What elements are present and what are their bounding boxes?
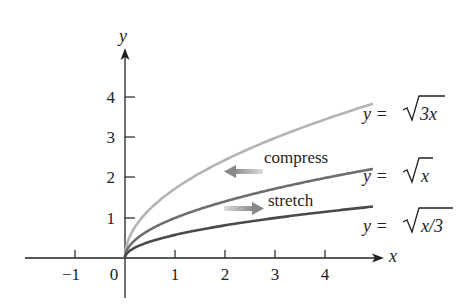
curve-sqrt-x: [125, 169, 373, 258]
equation-sqrt-x-over-3: y = x/3: [361, 208, 453, 236]
equation-prefix: y =: [361, 166, 392, 186]
compress-label: compress: [264, 148, 328, 167]
equation-prefix: y =: [361, 216, 392, 236]
compress-arrow-shaft: [233, 169, 263, 174]
y-tick-label: 1: [107, 209, 116, 228]
equation-prefix: y =: [361, 104, 392, 124]
equation-sqrt-x: y = x: [361, 158, 433, 186]
origin-label: 0: [110, 265, 119, 284]
equation-radicand: 3x: [419, 104, 437, 124]
equation-radicand: x/3: [420, 216, 443, 236]
x-axis-label: x: [388, 246, 397, 266]
stretch-arrow-shaft: [224, 206, 254, 211]
y-tick-label: 3: [107, 128, 116, 147]
curve-sqrt-3x: [125, 104, 373, 258]
curve-sqrt-x-over-3: [125, 207, 373, 258]
x-tick-label: 2: [221, 265, 230, 284]
tick-labels: −1 0 1 2 3 4 1 2 3 4 x y: [62, 26, 397, 284]
compress-arrow-icon: [224, 165, 236, 178]
y-tick-label: 2: [107, 168, 116, 187]
curves: [125, 104, 373, 258]
y-axis-label: y: [117, 26, 127, 46]
axes: [25, 48, 384, 298]
x-tick-label: 3: [271, 265, 280, 284]
y-tick-label: 4: [107, 88, 116, 107]
x-tick-label: −1: [62, 265, 80, 284]
stretch-arrow-icon: [252, 202, 264, 215]
x-tick-label: 4: [321, 265, 330, 284]
equation-sqrt-3x: y = 3x: [361, 96, 445, 124]
stretch-label: stretch: [268, 191, 314, 210]
x-tick-label: 1: [171, 265, 180, 284]
function-graph: −1 0 1 2 3 4 1 2 3 4 x y compress stretc…: [0, 0, 473, 305]
equation-radicand: x: [420, 166, 429, 186]
stretch-annotation: stretch: [224, 191, 314, 215]
